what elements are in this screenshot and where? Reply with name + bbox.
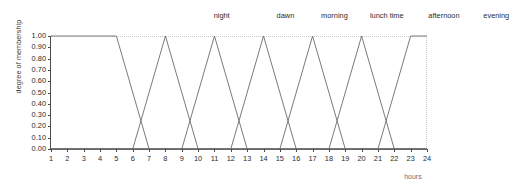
x-axis-tick-mark <box>165 149 166 152</box>
x-axis-tick-mark <box>67 149 68 152</box>
y-axis-tick-label: 0.00 <box>16 145 46 152</box>
x-axis-tick-mark <box>84 149 85 152</box>
term-label-lunch-time: lunch time <box>370 11 404 20</box>
y-axis-tick-label: 0.10 <box>16 134 46 141</box>
series-line-dawn <box>51 36 427 149</box>
term-label-afternoon: afternoon <box>428 11 459 20</box>
x-axis-tick-mark <box>198 149 199 152</box>
x-axis-tick-label: 24 <box>417 154 437 163</box>
x-axis-tick-mark <box>264 149 265 152</box>
term-label-morning: morning <box>321 11 348 20</box>
y-axis-tick-label: 0.30 <box>16 111 46 118</box>
x-axis-tick-mark <box>280 149 281 152</box>
x-axis-tick-mark <box>247 149 248 152</box>
x-axis-tick-mark <box>51 149 52 152</box>
y-axis-tick-label: 0.40 <box>16 100 46 107</box>
x-axis-tick-mark <box>214 149 215 152</box>
x-axis-tick-mark <box>427 149 428 152</box>
series-line-lunch-time <box>51 36 427 149</box>
x-axis-tick-mark <box>345 149 346 152</box>
y-axis-tick-label: 0.80 <box>16 55 46 62</box>
y-axis-tick-mark <box>48 126 51 127</box>
term-label-night: night <box>214 11 230 20</box>
x-axis-tick-mark <box>116 149 117 152</box>
y-axis-tick-label: 0.60 <box>16 77 46 84</box>
y-axis-tick-label: 0.50 <box>16 89 46 96</box>
series-line-night <box>51 36 427 149</box>
series-line-morning <box>51 36 427 149</box>
y-axis-tick-mark <box>48 81 51 82</box>
x-axis-tick-mark <box>411 149 412 152</box>
x-axis-tick-mark <box>378 149 379 152</box>
x-axis-tick-mark <box>394 149 395 152</box>
term-label-evening: evening <box>483 11 509 20</box>
x-axis-tick-mark <box>362 149 363 152</box>
y-axis-tick-label: 0.20 <box>16 122 46 129</box>
y-axis-tick-mark <box>48 115 51 116</box>
series-line-afternoon <box>51 36 427 149</box>
y-axis-tick-mark <box>48 138 51 139</box>
x-axis-tick-mark <box>313 149 314 152</box>
x-axis-tick-mark <box>149 149 150 152</box>
x-axis-tick-mark <box>329 149 330 152</box>
y-axis-tick-mark <box>48 70 51 71</box>
plot-area: 123456789101112131415161718192021222324 <box>50 36 427 150</box>
x-axis-tick-mark <box>182 149 183 152</box>
x-axis-tick-mark <box>100 149 101 152</box>
series-line-evening <box>51 36 427 149</box>
x-axis-tick-mark <box>231 149 232 152</box>
y-axis-tick-mark <box>48 59 51 60</box>
y-axis-tick-label: 0.70 <box>16 66 46 73</box>
y-axis-tick-mark <box>48 36 51 37</box>
term-label-dawn: dawn <box>277 11 295 20</box>
x-axis-tick-mark <box>133 149 134 152</box>
y-axis-tick-mark <box>48 93 51 94</box>
y-axis-tick-label: 1.00 <box>16 32 46 39</box>
series-lines <box>51 36 427 149</box>
y-axis-tick-mark <box>48 104 51 105</box>
x-axis-title: hours <box>404 173 422 180</box>
y-axis-tick-label: 0.90 <box>16 43 46 50</box>
y-axis-tick-mark <box>48 47 51 48</box>
x-axis-tick-mark <box>296 149 297 152</box>
